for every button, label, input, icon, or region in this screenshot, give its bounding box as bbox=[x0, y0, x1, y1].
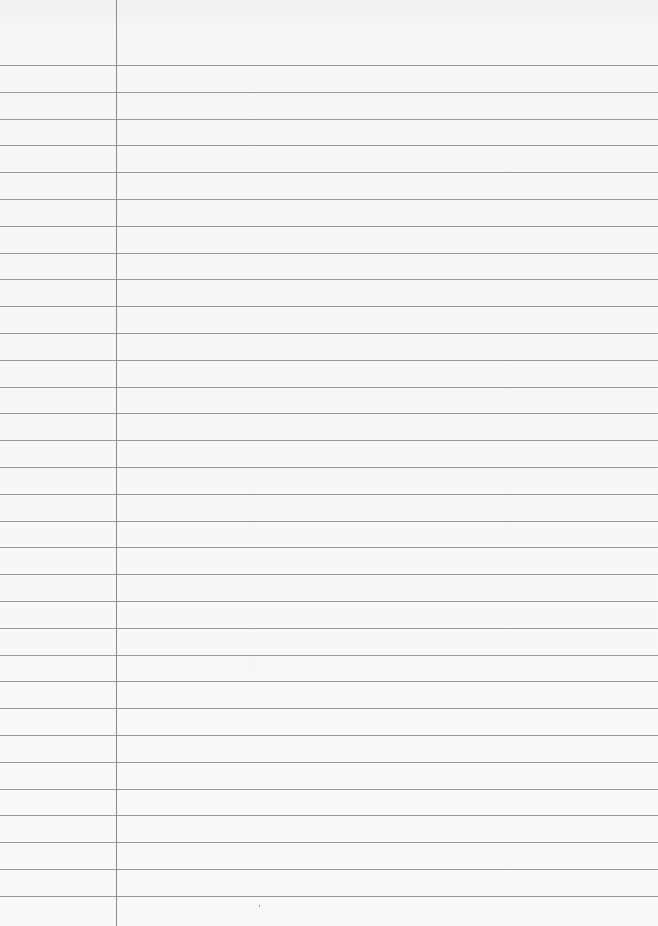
ruled-line bbox=[0, 735, 658, 736]
margin-line bbox=[116, 0, 117, 926]
paper-speck bbox=[259, 905, 260, 907]
ruled-line bbox=[0, 494, 658, 495]
ruled-line bbox=[0, 226, 658, 227]
ruled-line bbox=[0, 440, 658, 441]
lined-paper-sheet bbox=[0, 0, 658, 926]
ruled-line bbox=[0, 65, 658, 66]
ruled-line bbox=[0, 789, 658, 790]
ruled-line bbox=[0, 896, 658, 897]
ruled-line bbox=[0, 253, 658, 254]
ruled-line bbox=[0, 279, 658, 280]
ruled-line bbox=[0, 119, 658, 120]
ruled-line bbox=[0, 333, 658, 334]
ruled-line bbox=[0, 360, 658, 361]
ruled-line bbox=[0, 92, 658, 93]
ruled-line bbox=[0, 521, 658, 522]
ruled-line bbox=[0, 601, 658, 602]
ruled-line bbox=[0, 681, 658, 682]
ruled-line bbox=[0, 413, 658, 414]
ruled-line bbox=[0, 306, 658, 307]
ruled-line bbox=[0, 842, 658, 843]
ruled-line bbox=[0, 547, 658, 548]
ruled-line bbox=[0, 467, 658, 468]
ruled-line bbox=[0, 574, 658, 575]
ruled-line bbox=[0, 762, 658, 763]
ruled-line bbox=[0, 708, 658, 709]
ruled-line bbox=[0, 172, 658, 173]
ruled-line bbox=[0, 145, 658, 146]
ruled-line bbox=[0, 655, 658, 656]
ruled-line bbox=[0, 387, 658, 388]
ruled-line bbox=[0, 199, 658, 200]
ruled-line bbox=[0, 869, 658, 870]
ruled-line bbox=[0, 815, 658, 816]
ruled-line bbox=[0, 628, 658, 629]
